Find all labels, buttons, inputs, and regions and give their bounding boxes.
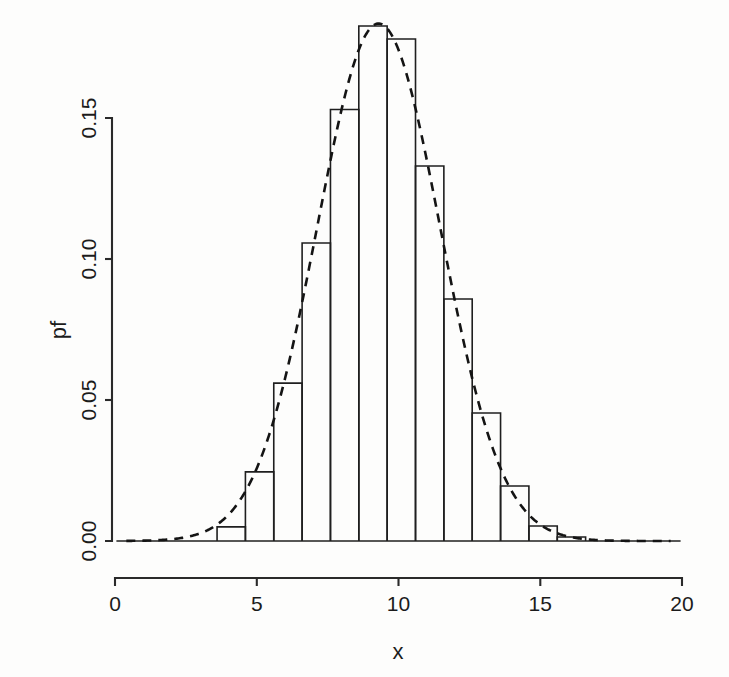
x-axis-tick-label: 0 <box>109 592 121 615</box>
y-axis-tick-label: 0.05 <box>77 380 100 421</box>
histogram-bars-group <box>217 26 586 541</box>
histogram-bar <box>529 526 557 541</box>
y-axis-line <box>105 118 112 541</box>
y-axis-tick-label: 0.15 <box>77 98 100 139</box>
histogram-bar <box>387 39 415 541</box>
y-axis-tick-label: 0.00 <box>77 521 100 562</box>
x-axis-tick-label: 15 <box>529 592 552 615</box>
y-axis-tick-label: 0.10 <box>77 239 100 280</box>
histogram-plot-figure: 0.000.050.100.15 05101520 pf x <box>0 0 729 677</box>
x-axis-tick-label: 10 <box>387 592 410 615</box>
y-axis-title: pf <box>46 320 71 339</box>
x-axis-tick-labels-group: 05101520 <box>109 592 694 615</box>
histogram-bar <box>330 110 358 541</box>
x-axis-title: x <box>393 639 404 664</box>
x-axis-tick-label: 5 <box>251 592 263 615</box>
histogram-bar <box>359 26 387 541</box>
histogram-bar <box>217 527 245 541</box>
plot-canvas: 0.000.050.100.15 05101520 pf x <box>0 0 729 677</box>
histogram-bar <box>302 243 330 541</box>
x-axis-ticks-group <box>257 578 541 586</box>
x-axis-tick-label: 20 <box>670 592 693 615</box>
histogram-bar <box>444 299 472 541</box>
density-curve <box>126 24 670 541</box>
y-axis-tick-labels-group: 0.000.050.100.15 <box>77 98 100 562</box>
